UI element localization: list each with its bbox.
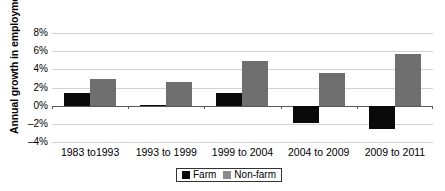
y-axis-tick-labels: 8%6%4%2%0%–2%–4% bbox=[10, 33, 48, 142]
bar-farm bbox=[64, 93, 90, 106]
x-tick-label: 1993 to 1999 bbox=[128, 145, 204, 159]
farm-swatch-icon bbox=[182, 171, 190, 179]
bar-farm bbox=[140, 105, 166, 106]
legend-label: Farm bbox=[193, 170, 216, 180]
bar-group bbox=[204, 33, 280, 142]
bar-non-farm bbox=[90, 79, 116, 105]
y-tick-label: 6% bbox=[14, 46, 48, 56]
bar-group bbox=[357, 33, 433, 142]
non-farm-swatch-icon bbox=[223, 171, 231, 179]
y-tick-label: –4% bbox=[14, 137, 48, 147]
plot-area bbox=[52, 33, 433, 142]
bar-group bbox=[281, 33, 357, 142]
bar-non-farm bbox=[242, 61, 268, 106]
bar-group bbox=[128, 33, 204, 142]
legend-entry: Non-farm bbox=[223, 170, 276, 180]
x-tick-label: 1983 to1993 bbox=[52, 145, 128, 159]
x-axis-tick bbox=[432, 106, 433, 109]
bar-non-farm bbox=[319, 73, 345, 106]
legend-entry: Farm bbox=[182, 170, 216, 180]
y-tick-label: 4% bbox=[14, 64, 48, 74]
bar-non-farm bbox=[395, 54, 421, 106]
bar-group bbox=[52, 33, 128, 142]
bar-non-farm bbox=[166, 82, 192, 106]
legend-label: Non-farm bbox=[234, 170, 276, 180]
y-tick-label: 0% bbox=[14, 101, 48, 111]
bar-chart: Annual growth in employment 8%6%4%2%0%–2… bbox=[0, 0, 445, 191]
x-tick-label: 2004 to 2009 bbox=[281, 145, 357, 159]
bar-farm bbox=[293, 106, 319, 123]
x-tick-label: 1999 to 2004 bbox=[204, 145, 280, 159]
x-tick-label: 2009 to 2011 bbox=[357, 145, 433, 159]
y-tick-label: 8% bbox=[14, 28, 48, 38]
gridline bbox=[52, 142, 433, 143]
bar-farm bbox=[216, 93, 242, 106]
y-tick-label: –2% bbox=[14, 119, 48, 129]
y-tick-label: 2% bbox=[14, 83, 48, 93]
bar-farm bbox=[369, 106, 395, 130]
chart-legend: FarmNon-farm bbox=[176, 168, 282, 182]
x-axis-tick-labels: 1983 to19931993 to 19991999 to 20042004 … bbox=[52, 145, 433, 159]
